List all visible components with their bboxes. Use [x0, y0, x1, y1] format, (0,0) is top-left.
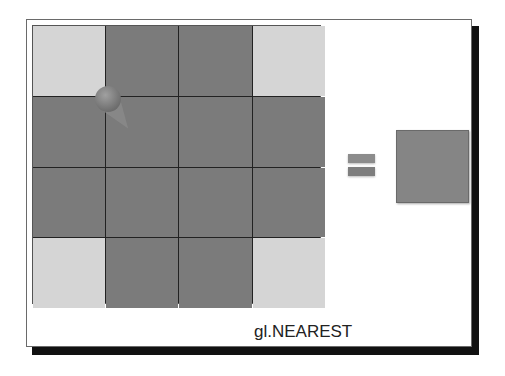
texel-3-1	[106, 238, 178, 308]
texel-0-3	[253, 26, 325, 96]
texel-0-2	[179, 26, 252, 96]
texel-1-0	[33, 97, 105, 167]
texel-1-3	[253, 97, 325, 167]
texture-grid	[32, 25, 321, 304]
texel-3-0	[33, 238, 105, 308]
texel-2-2	[179, 168, 252, 237]
texel-3-3	[253, 238, 325, 308]
equals-icon-top-bar	[348, 154, 375, 163]
texel-3-2	[179, 238, 252, 308]
sample-point-sphere-icon	[95, 86, 121, 112]
texel-2-1	[106, 168, 178, 237]
texel-2-0	[33, 168, 105, 237]
equals-icon-bottom-bar	[348, 167, 375, 176]
filter-mode-label: gl.NEAREST	[254, 322, 352, 342]
texel-1-2	[179, 97, 252, 167]
texel-0-1	[106, 26, 178, 96]
texel-0-0	[33, 26, 105, 96]
result-color-swatch	[396, 130, 469, 203]
texel-2-3	[253, 168, 325, 237]
